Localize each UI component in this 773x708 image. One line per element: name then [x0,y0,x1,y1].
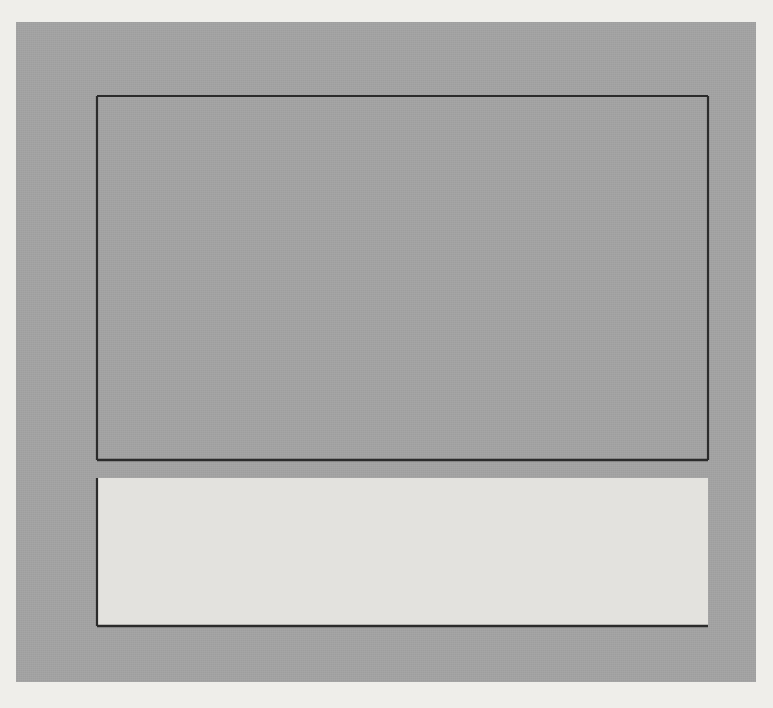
top-chart-axis-box [97,96,708,460]
figure-root [0,0,773,708]
chart-drawing-layer [0,0,773,708]
bottom-chart-plot-area [97,478,708,626]
